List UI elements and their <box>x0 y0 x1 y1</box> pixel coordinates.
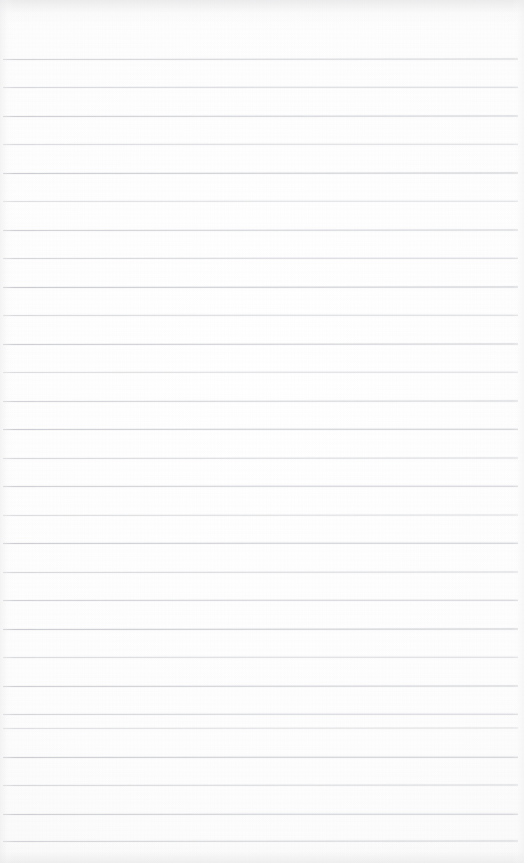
rule-line <box>3 814 518 815</box>
scan-edge-haze-top <box>0 0 524 26</box>
rule-line <box>3 258 518 259</box>
rule-line <box>3 229 518 231</box>
rule-line <box>3 543 518 544</box>
rule-line <box>3 515 518 516</box>
rule-line <box>3 784 518 786</box>
rule-line <box>3 486 518 487</box>
rule-line <box>3 657 518 658</box>
ruled-lines-group <box>0 0 524 863</box>
rule-line <box>3 144 518 145</box>
rule-line <box>3 757 518 758</box>
scanned-notebook-page <box>0 0 524 863</box>
rule-line <box>3 571 518 573</box>
rule-line <box>3 173 518 174</box>
rule-line <box>3 315 518 316</box>
rule-line <box>3 429 518 430</box>
rule-line <box>3 287 518 288</box>
rule-line <box>3 344 518 345</box>
rule-line <box>3 201 518 202</box>
rule-line <box>3 87 518 88</box>
rule-line <box>3 714 518 715</box>
rule-line <box>3 400 518 402</box>
scan-edge-haze-bottom <box>0 841 524 863</box>
rule-line <box>3 629 518 630</box>
rule-line <box>3 728 518 729</box>
rule-line <box>3 115 518 117</box>
rule-line <box>3 458 518 459</box>
rule-line <box>3 600 518 601</box>
rule-line <box>3 59 518 60</box>
scan-edge-haze-right <box>512 0 524 863</box>
rule-line <box>3 372 518 373</box>
scan-edge-haze-left <box>0 0 14 863</box>
rule-line <box>3 686 518 687</box>
